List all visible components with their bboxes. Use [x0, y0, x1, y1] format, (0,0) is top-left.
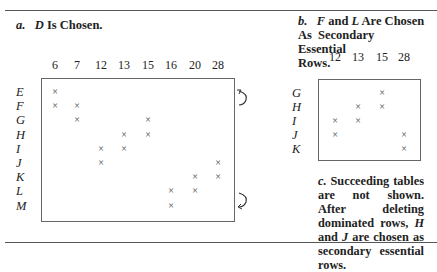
row-label: J — [16, 156, 30, 171]
note-c-text-1: Succeeding tables are not shown. After d… — [318, 174, 424, 230]
table-a-title-var: D — [35, 18, 44, 32]
table-b-line1: Are Chosen — [359, 14, 424, 28]
column-header: 12 — [91, 58, 111, 73]
column-header: 28 — [394, 50, 414, 65]
table-a-box — [41, 78, 235, 222]
row-label: L — [16, 184, 30, 199]
row-label: I — [16, 142, 30, 157]
table-b-box — [318, 79, 421, 161]
column-header: 6 — [45, 58, 65, 73]
column-header: 13 — [114, 58, 134, 73]
curved-arrow-icon — [236, 88, 250, 108]
row-label: H — [16, 128, 30, 143]
column-header: 28 — [208, 58, 228, 73]
note-c-h: H — [414, 216, 424, 230]
table-a-letter: a. — [16, 18, 25, 32]
row-label: G — [16, 113, 30, 128]
note-c-letter: c. — [318, 174, 327, 188]
note-c: c. Succeeding tables are not shown. Afte… — [318, 174, 424, 272]
column-header: 15 — [138, 58, 158, 73]
table-b-and: and — [325, 14, 351, 28]
row-label: I — [292, 114, 306, 129]
curved-arrow-icon — [236, 190, 250, 210]
row-label: M — [16, 199, 30, 214]
row-label: G — [292, 86, 306, 101]
table-a-title: a. D Is Chosen. — [16, 18, 102, 32]
table-a-title-text: Is Chosen. — [44, 18, 103, 32]
table-b-var-l: L — [352, 14, 360, 28]
table-b-var-f: F — [317, 14, 325, 28]
row-label: K — [292, 142, 306, 157]
row-label: E — [16, 85, 30, 100]
table-b-letter: b. — [298, 14, 307, 28]
column-header: 15 — [372, 50, 392, 65]
column-header: 16 — [161, 58, 181, 73]
column-header: 7 — [67, 58, 87, 73]
note-c-text-2: and — [318, 230, 342, 244]
column-header: 20 — [185, 58, 205, 73]
row-label: K — [16, 170, 30, 185]
top-rule — [5, 10, 437, 11]
column-header: 13 — [348, 50, 368, 65]
column-header: 12 — [325, 50, 345, 65]
row-label: J — [292, 128, 306, 143]
row-label: H — [292, 100, 306, 115]
row-label: F — [16, 99, 30, 114]
